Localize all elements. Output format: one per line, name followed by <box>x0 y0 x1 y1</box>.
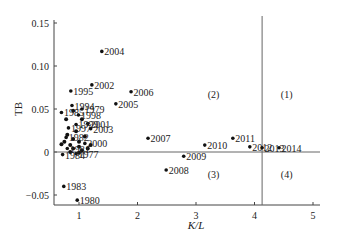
data-point-label: 2010 <box>207 140 227 151</box>
data-point-marker <box>59 142 63 146</box>
data-point: 2005 <box>114 99 138 110</box>
data-point-marker <box>146 136 150 140</box>
data-point: 1984 <box>61 150 85 161</box>
data-point: 2014 <box>277 143 301 154</box>
y-axis-label: TB <box>12 102 24 116</box>
data-point: 2006 <box>129 87 153 98</box>
data-point-marker <box>62 185 66 189</box>
data-point: 2002 <box>90 80 114 91</box>
quadrant-label: (4) <box>281 169 293 181</box>
data-point-label: 2007 <box>151 133 171 144</box>
data-point: 1980 <box>75 195 99 206</box>
data-point-marker <box>89 127 93 131</box>
data-point-marker <box>248 145 252 149</box>
data-point: 2004 <box>100 46 124 57</box>
quadrant-label: (2) <box>208 89 220 101</box>
data-point-marker <box>114 102 118 106</box>
y-tick-label: 0 <box>44 147 49 158</box>
data-point-marker <box>67 126 71 130</box>
x-tick-label: 5 <box>311 210 316 221</box>
data-point-label: 2004 <box>104 46 124 57</box>
data-point-marker <box>164 168 168 172</box>
data-point-marker <box>69 89 73 93</box>
data-point-marker <box>203 143 207 147</box>
data-point-label: 1984 <box>65 150 85 161</box>
data-point: 2007 <box>146 133 170 144</box>
data-point-label: 2014 <box>282 143 302 154</box>
data-point-marker <box>277 146 281 150</box>
data-point-label: 2005 <box>118 99 138 110</box>
data-point-marker <box>75 198 79 202</box>
data-point-label: 1980 <box>80 195 100 206</box>
data-point-marker <box>129 90 133 94</box>
data-point-label: 1982 <box>69 132 89 143</box>
data-point-label: 2006 <box>134 87 154 98</box>
data-point: 2008 <box>164 165 188 176</box>
data-point-marker <box>64 136 68 140</box>
x-axis-label: K/L <box>187 219 205 231</box>
data-point-marker <box>100 50 104 54</box>
data-point: 1995 <box>69 86 93 97</box>
data-point-label: 1995 <box>73 86 93 97</box>
x-tick-label: 2 <box>135 210 140 221</box>
x-tick-label: 1 <box>77 210 82 221</box>
y-tick-label: 0.05 <box>32 104 50 115</box>
quadrant-label: (1) <box>281 89 293 101</box>
data-point-marker <box>182 155 186 159</box>
quadrant-label: (3) <box>208 169 220 181</box>
y-tick-label: 0.10 <box>32 61 50 72</box>
y-tick-label: 0.15 <box>32 18 50 29</box>
data-point-label: 1983 <box>66 181 86 192</box>
data-point-label: 2002 <box>94 80 114 91</box>
data-point-marker <box>60 111 64 115</box>
data-point-label: 2008 <box>169 165 189 176</box>
data-point-label: 2009 <box>186 151 206 162</box>
data-point-marker <box>61 153 65 157</box>
x-tick-label: 4 <box>252 210 257 221</box>
data-point: 2003 <box>89 124 113 135</box>
data-point-marker <box>77 113 81 117</box>
scatter-chart: 0.150.100.050−0.0512345 2004200219952006… <box>0 0 338 244</box>
data-point: 1983 <box>62 181 86 192</box>
data-point: 2010 <box>203 140 227 151</box>
data-points: 2004200219952006200519941979198519982001… <box>59 46 301 206</box>
data-point-marker <box>231 136 235 140</box>
y-tick-label: −0.05 <box>26 190 49 201</box>
data-point: 2009 <box>182 151 206 162</box>
data-point-marker <box>260 146 264 150</box>
data-point-label: 2003 <box>93 124 113 135</box>
